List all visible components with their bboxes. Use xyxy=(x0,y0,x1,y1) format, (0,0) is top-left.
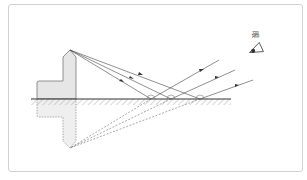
eye-label: 眼 xyxy=(251,31,261,38)
object-shape xyxy=(37,50,76,99)
plane-mirror-reflection-diagram xyxy=(0,0,307,180)
reflected-rays xyxy=(151,60,253,99)
eye-icon xyxy=(247,43,263,58)
ray-arrows xyxy=(119,69,239,87)
virtual-image-shape xyxy=(37,99,76,148)
virtual-rays xyxy=(70,99,200,148)
incident-rays xyxy=(70,50,200,99)
mirror-hatching xyxy=(31,99,231,105)
